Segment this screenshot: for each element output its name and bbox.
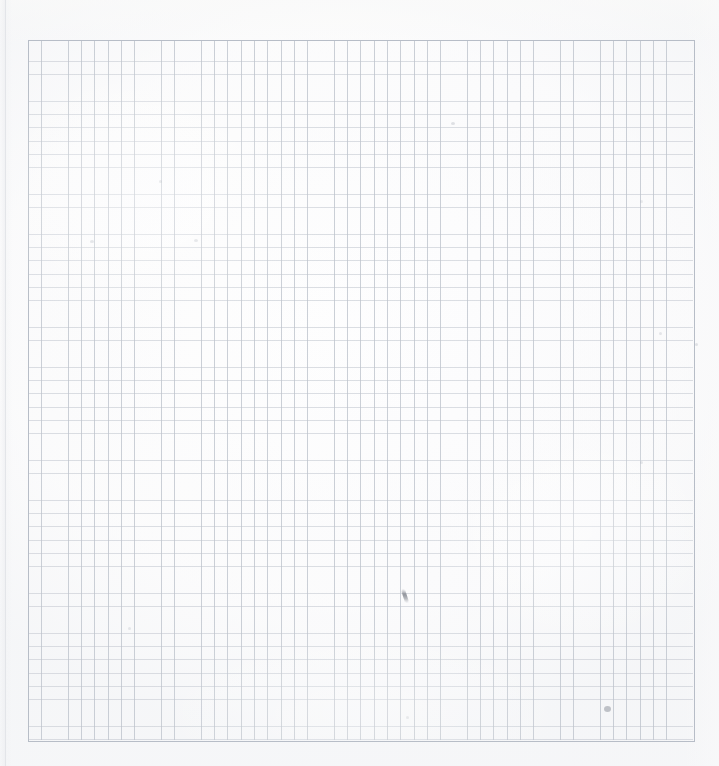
scanned-page [0, 0, 719, 766]
page-edge-line [5, 0, 6, 766]
grid-outer-border [28, 40, 695, 742]
page-edge-shadow [0, 0, 16, 766]
graph-paper-grid [28, 40, 693, 740]
